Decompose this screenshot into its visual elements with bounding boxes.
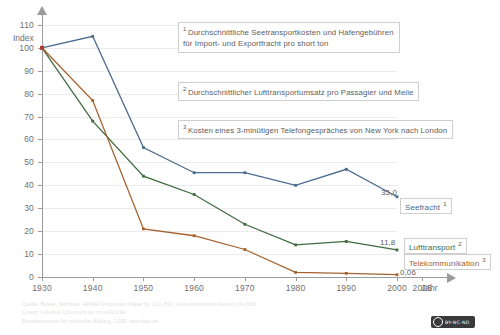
data-point — [193, 234, 196, 237]
gridline — [42, 185, 397, 186]
creative-commons-badge[interactable]: BY-NC-ND — [431, 316, 475, 328]
data-point — [396, 249, 399, 252]
y-axis-tick-label: 90 — [4, 66, 34, 76]
y-axis-title: Index — [13, 33, 34, 43]
legend-label-seefracht: Seefracht — [405, 202, 440, 211]
legend-label-lufttransport: Lufttransport — [409, 242, 455, 251]
x-axis-tick — [42, 277, 43, 281]
gridline — [42, 208, 397, 209]
x-axis-tick — [397, 277, 398, 281]
cc-logo-icon — [433, 317, 443, 327]
data-point — [91, 99, 94, 102]
y-axis-tick-label: 20 — [4, 226, 34, 236]
cc-badge-text: BY-NC-ND — [445, 320, 470, 325]
x-axis-tick-label: 1950 — [123, 283, 163, 293]
y-axis-tick-label: 80 — [4, 89, 34, 99]
y-axis-tick-label: 100 — [4, 43, 34, 53]
source-line-1: Quelle: Busse, Matthias: HWWA Discussion… — [22, 300, 256, 308]
data-point — [345, 272, 348, 275]
value-label-lufttransport: 11,8 — [380, 238, 395, 247]
y-axis-tick-label: 10 — [4, 249, 34, 259]
legend-item-lufttransport[interactable]: Lufttransport2 — [404, 238, 467, 254]
y-axis-tick-label: 30 — [4, 203, 34, 213]
data-point — [142, 227, 145, 230]
data-point — [91, 120, 94, 123]
footnote-3: 3Kosten eines 3-minütigen Telefongespräc… — [178, 120, 453, 139]
footnote-1-text: Durchschnittliche Seetransportkosten und… — [183, 28, 394, 48]
data-point — [142, 175, 145, 178]
data-point — [345, 240, 348, 243]
legend-label-telekommunikation: Telekommunikation — [409, 258, 479, 267]
chart-canvas: Index Jahr 0102030405060708090100110 193… — [0, 0, 500, 335]
gridline — [42, 231, 397, 232]
legend-marker-seefracht: 1 — [443, 201, 446, 207]
footnote-3-marker: 3 — [183, 124, 186, 130]
gridline — [42, 139, 397, 140]
y-axis-tick-label: 40 — [4, 180, 34, 190]
data-point — [396, 273, 399, 276]
y-axis-tick-label: 60 — [4, 134, 34, 144]
x-axis-tick — [296, 277, 297, 281]
data-point — [193, 193, 196, 196]
source-line-3: Bundeszentrale für politische Bildung, 2… — [22, 317, 256, 325]
footnote-3-text: Kosten eines 3-minütigen Telefongespräch… — [188, 126, 447, 135]
source-line-2: Lizenz: Creative Commons by-nc-nd/3.0/de — [22, 308, 256, 316]
x-axis-tick-label: 2005 — [402, 283, 442, 293]
gridline — [42, 162, 397, 163]
footnote-2: 2Durchschnittlicher Lufttransportumsatz … — [178, 82, 419, 101]
series-line-lufttransport — [42, 48, 397, 250]
data-point — [91, 35, 94, 38]
x-axis-tick — [245, 277, 246, 281]
x-axis-tick-label: 1970 — [225, 283, 265, 293]
y-axis-tick-label: 110 — [4, 20, 34, 30]
y-axis-arrow-icon — [37, 6, 47, 15]
data-point — [345, 168, 348, 171]
x-axis-arrow-icon — [447, 273, 456, 283]
x-axis-tick-label: 1930 — [22, 283, 62, 293]
footnote-2-marker: 2 — [183, 86, 186, 92]
x-axis-tick — [194, 277, 195, 281]
data-point — [193, 171, 196, 174]
y-axis-line — [42, 14, 43, 278]
data-point — [294, 271, 297, 274]
gridline — [42, 117, 397, 118]
source-credits: Quelle: Busse, Matthias: HWWA Discussion… — [22, 300, 256, 325]
legend-item-telekommunikation[interactable]: Telekommunikation3 — [404, 254, 491, 270]
x-axis-tick-label: 1940 — [73, 283, 113, 293]
x-axis-tick — [346, 277, 347, 281]
value-label-seefracht: 35,0 — [381, 188, 397, 197]
y-axis-tick-label: 0 — [4, 272, 34, 282]
gridline — [42, 254, 397, 255]
y-axis-tick-label: 50 — [4, 157, 34, 167]
x-axis-tick-label: 1960 — [174, 283, 214, 293]
value-label-telekommunikation: 0,06 — [400, 268, 416, 277]
footnote-1-marker: 1 — [183, 26, 186, 32]
gridline — [42, 71, 397, 72]
x-axis-tick-label: 1990 — [326, 283, 366, 293]
data-point — [243, 248, 246, 251]
x-axis-tick — [422, 277, 423, 281]
legend-item-seefracht[interactable]: Seefracht1 — [400, 198, 452, 214]
x-axis-tick-label: 1980 — [276, 283, 316, 293]
footnote-1: 1Durchschnittliche Seetransportkosten un… — [178, 22, 400, 53]
x-axis-tick — [143, 277, 144, 281]
data-point — [294, 244, 297, 247]
legend-marker-lufttransport: 2 — [458, 241, 461, 247]
y-axis-tick-label: 70 — [4, 112, 34, 122]
data-point — [243, 223, 246, 226]
data-point — [243, 171, 246, 174]
data-point — [142, 146, 145, 149]
legend-marker-telekommunikation: 3 — [482, 257, 485, 263]
footnote-2-text: Durchschnittlicher Lufttransportumsatz p… — [188, 88, 413, 97]
x-axis-tick — [93, 277, 94, 281]
